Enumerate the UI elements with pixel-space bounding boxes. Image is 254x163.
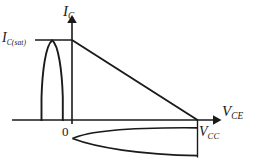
saturation-label: IC(sat): [2, 31, 26, 45]
y-axis-label-subscript: C: [68, 11, 74, 21]
origin-label: 0: [62, 125, 69, 138]
voltage-waveform-lower: [73, 139, 198, 156]
saturation-label-subscript: C(sat): [7, 38, 26, 47]
y-axis-group: [67, 15, 77, 124]
supply-voltage-label-subscript: CC: [208, 131, 220, 141]
x-axis-group: [12, 115, 222, 125]
saturation-label-symbol: I: [2, 30, 7, 45]
x-axis-label: VCE: [222, 104, 243, 119]
load-line-figure: IC IC(sat) 0 VCC VCE: [0, 0, 254, 163]
supply-voltage-label-symbol: V: [199, 124, 208, 139]
collector-current-waveform: [42, 40, 63, 121]
voltage-waveform-upper: [73, 128, 198, 139]
dc-load-line: [72, 40, 198, 120]
x-axis-label-symbol: V: [222, 103, 231, 119]
supply-voltage-label: VCC: [199, 125, 219, 139]
x-axis-arrow-icon: [213, 115, 222, 125]
x-axis-label-subscript: CE: [231, 111, 243, 121]
y-axis-label: IC: [63, 4, 74, 19]
